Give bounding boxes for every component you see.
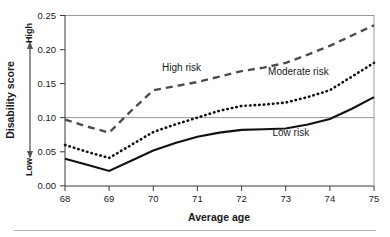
y-tick-label-005: 0.05	[38, 146, 57, 157]
x-axis-title: Average age	[188, 211, 250, 223]
y-tick-marks	[60, 16, 65, 186]
x-tick-marks	[65, 186, 374, 191]
series-label-high-risk: High risk	[162, 62, 202, 73]
series-label-low-risk: Low risk	[273, 127, 311, 138]
y-tick-label-000: 0.00	[38, 180, 57, 191]
x-tick-label-69: 69	[104, 193, 115, 204]
y-tick-label-010: 0.10	[38, 112, 57, 123]
y-tick-label-025: 0.25	[38, 10, 57, 21]
y-direction-low-label: Low	[24, 157, 34, 176]
x-tick-label-72: 72	[236, 193, 247, 204]
x-tick-label-68: 68	[60, 193, 71, 204]
y-tick-label-020: 0.20	[38, 44, 57, 55]
chart-figure: 0.25 0.20 0.15 0.10 0.05 0.00 68 69 70 7…	[0, 0, 390, 237]
x-tick-label-74: 74	[325, 193, 336, 204]
chart-svg: 0.25 0.20 0.15 0.10 0.05 0.00 68 69 70 7…	[0, 0, 390, 237]
y-tick-label-015: 0.15	[38, 78, 57, 89]
plot-area-background	[65, 15, 374, 186]
series-label-moderate-risk: Moderate risk	[268, 66, 330, 77]
y-axis-title: Disability score	[4, 61, 16, 139]
x-tick-label-75: 75	[369, 193, 380, 204]
x-tick-label-73: 73	[280, 193, 291, 204]
x-tick-label-70: 70	[148, 193, 159, 204]
direction-arrow-icon	[27, 41, 33, 159]
y-direction-high-label: High	[24, 23, 34, 43]
x-tick-label-71: 71	[192, 193, 203, 204]
